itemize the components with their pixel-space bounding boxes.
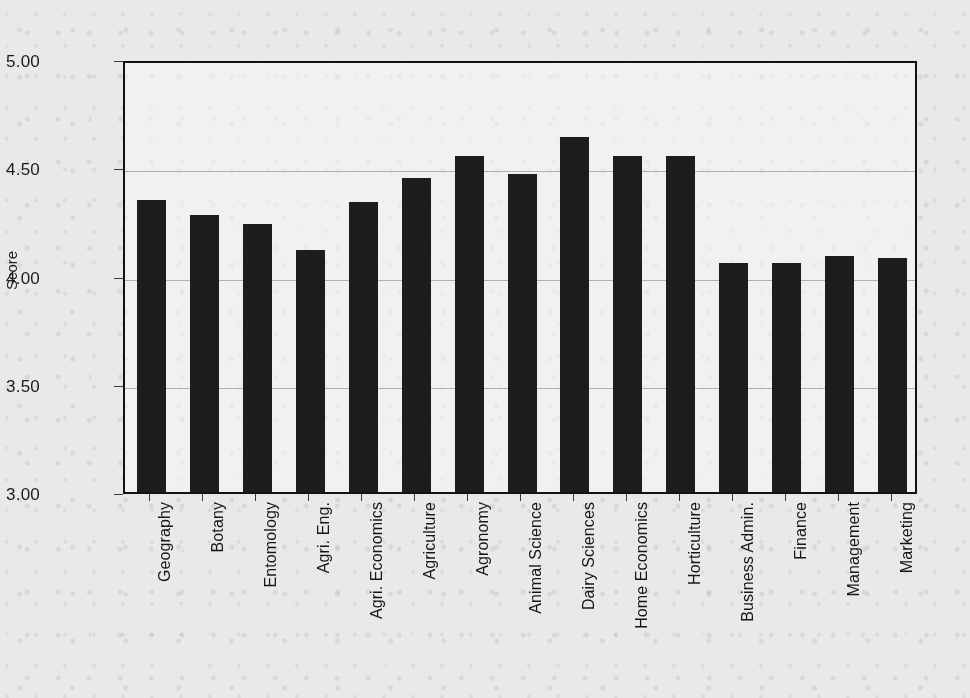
bar (349, 202, 378, 492)
x-tick-label: Management (845, 502, 863, 596)
x-tick-label: Agronomy (474, 502, 492, 576)
x-tick-label: Animal Science (527, 502, 545, 614)
bar (878, 258, 907, 492)
x-tick-label: Agriculture (421, 502, 439, 580)
y-tick-mark (114, 386, 123, 387)
x-tick-mark (202, 494, 203, 501)
bar (719, 263, 748, 492)
x-tick-mark (467, 494, 468, 501)
x-tick-label: Dairy Sciences (580, 502, 598, 610)
y-tick-mark (114, 169, 123, 170)
x-tick-mark (149, 494, 150, 501)
y-tick-mark (114, 494, 123, 495)
y-tick-mark (114, 278, 123, 279)
x-tick-label: Home Economics (633, 502, 651, 629)
x-tick-label: Horticulture (686, 502, 704, 585)
gridline (125, 171, 915, 172)
x-tick-mark (626, 494, 627, 501)
bar (296, 250, 325, 492)
x-tick-mark (785, 494, 786, 501)
x-tick-label: Entomology (262, 502, 280, 588)
bar (560, 137, 589, 492)
x-tick-label: Botany (209, 502, 227, 552)
y-tick-label: 3.50 (0, 377, 40, 397)
x-tick-label: Agri. Economics (368, 502, 386, 619)
x-tick-label: Marketing (898, 502, 916, 573)
x-tick-mark (361, 494, 362, 501)
x-tick-mark (308, 494, 309, 501)
y-tick-label: 5.00 (0, 52, 40, 72)
bar (137, 200, 166, 492)
x-tick-mark (520, 494, 521, 501)
y-tick-label: 3.00 (0, 485, 40, 505)
bar (508, 174, 537, 492)
x-tick-label: Geography (156, 502, 174, 582)
x-tick-mark (732, 494, 733, 501)
x-tick-label: Agri. Eng. (315, 502, 333, 573)
x-tick-mark (414, 494, 415, 501)
x-tick-label: Finance (792, 502, 810, 560)
bar (190, 215, 219, 492)
x-tick-mark (573, 494, 574, 501)
bar (402, 178, 431, 492)
x-tick-mark (679, 494, 680, 501)
bar (666, 156, 695, 492)
x-tick-mark (891, 494, 892, 501)
plot-area (123, 61, 917, 494)
y-tick-mark (114, 61, 123, 62)
bar (243, 224, 272, 492)
bar (825, 256, 854, 492)
x-tick-mark (255, 494, 256, 501)
x-tick-label: Business Admin. (739, 502, 757, 622)
y-tick-label: 4.50 (0, 160, 40, 180)
bar (772, 263, 801, 492)
bar-chart: Score 5.004.504.003.503.00 GeographyBota… (0, 0, 970, 698)
x-tick-mark (838, 494, 839, 501)
bar (455, 156, 484, 492)
bar (613, 156, 642, 492)
y-tick-label: 4.00 (0, 269, 40, 289)
